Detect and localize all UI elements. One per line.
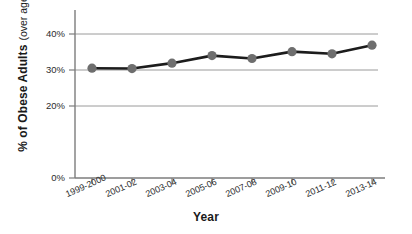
obesity-line-chart: % of Obese Adults (over age 20) Year 0%2…: [0, 0, 412, 234]
y-tick-label: 20%: [31, 100, 65, 111]
data-point-marker: [87, 64, 96, 73]
data-point-marker: [127, 64, 136, 73]
y-tick-marks: [69, 34, 75, 178]
data-point-marker: [167, 59, 176, 68]
data-point-marker: [247, 54, 256, 63]
y-tick-label: 30%: [31, 64, 65, 75]
data-point-marker: [327, 49, 336, 58]
data-point-marker: [367, 41, 376, 50]
data-point-marker: [207, 51, 216, 60]
y-tick-label: 0%: [31, 172, 65, 183]
y-tick-label: 40%: [31, 28, 65, 39]
gridlines: [75, 34, 378, 106]
data-point-marker: [287, 47, 296, 56]
